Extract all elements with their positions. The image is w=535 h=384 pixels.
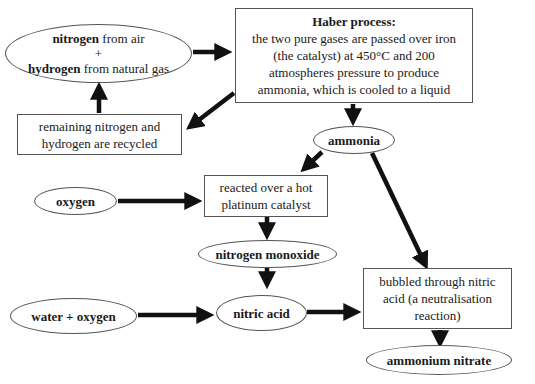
oxygen-node: oxygen	[34, 187, 117, 215]
platinum-line: reacted over a hot	[220, 179, 313, 196]
ammonia-label: ammonia	[328, 132, 380, 149]
haber-line: atmospheres pressure to produce	[269, 64, 439, 81]
haber-line: (the catalyst) at 450°C and 200	[273, 47, 435, 64]
oxygen-label: oxygen	[56, 193, 95, 210]
arrow-haber-to-recycle	[191, 93, 234, 126]
arrow-ammonia-to-platinum	[305, 152, 322, 168]
hydrogen-label: hydrogen	[28, 61, 81, 76]
neutralisation-line: acid (a neutralisation	[383, 290, 492, 307]
haber-line: ammonia, which is cooled to a liquid	[258, 81, 450, 98]
water-oxygen-node: water + oxygen	[10, 298, 137, 334]
recycle-line: remaining nitrogen and	[39, 118, 160, 135]
nitrogen-label: nitrogen	[52, 31, 99, 46]
recycle-line: hydrogen are recycled	[42, 135, 158, 152]
recycle-box: remaining nitrogen and hydrogen are recy…	[17, 114, 182, 155]
ammonia-node: ammonia	[313, 126, 395, 154]
water-oxygen-label: water + oxygen	[31, 308, 115, 325]
nitrogen-monoxide-node: nitrogen monoxide	[198, 240, 337, 268]
platinum-catalyst-box: reacted over a hot platinum catalyst	[204, 175, 328, 217]
arrow-ammonia-to-neutralisation	[372, 153, 425, 264]
nitric-acid-node: nitric acid	[216, 295, 307, 331]
nitrogen-monoxide-label: nitrogen monoxide	[215, 246, 319, 263]
neutralisation-box: bubbled through nitric acid (a neutralis…	[363, 268, 512, 329]
nitrogen-source: from air	[99, 31, 144, 46]
plus-sign: +	[95, 46, 102, 61]
hydrogen-source: from natural gas	[81, 61, 169, 76]
nitric-acid-label: nitric acid	[233, 305, 290, 322]
haber-process-box: Haber process: the two pure gases are pa…	[235, 8, 473, 103]
haber-title: Haber process:	[312, 13, 396, 30]
haber-line: the two pure gases are passed over iron	[252, 30, 456, 47]
ammonium-nitrate-label: ammonium nitrate	[387, 352, 491, 369]
neutralisation-line: reaction)	[414, 307, 460, 324]
ammonium-nitrate-node: ammonium nitrate	[366, 345, 512, 375]
neutralisation-line: bubbled through nitric	[379, 273, 495, 290]
raw-materials-node: nitrogen from air + hydrogen from natura…	[5, 24, 192, 83]
platinum-line: platinum catalyst	[221, 196, 310, 213]
